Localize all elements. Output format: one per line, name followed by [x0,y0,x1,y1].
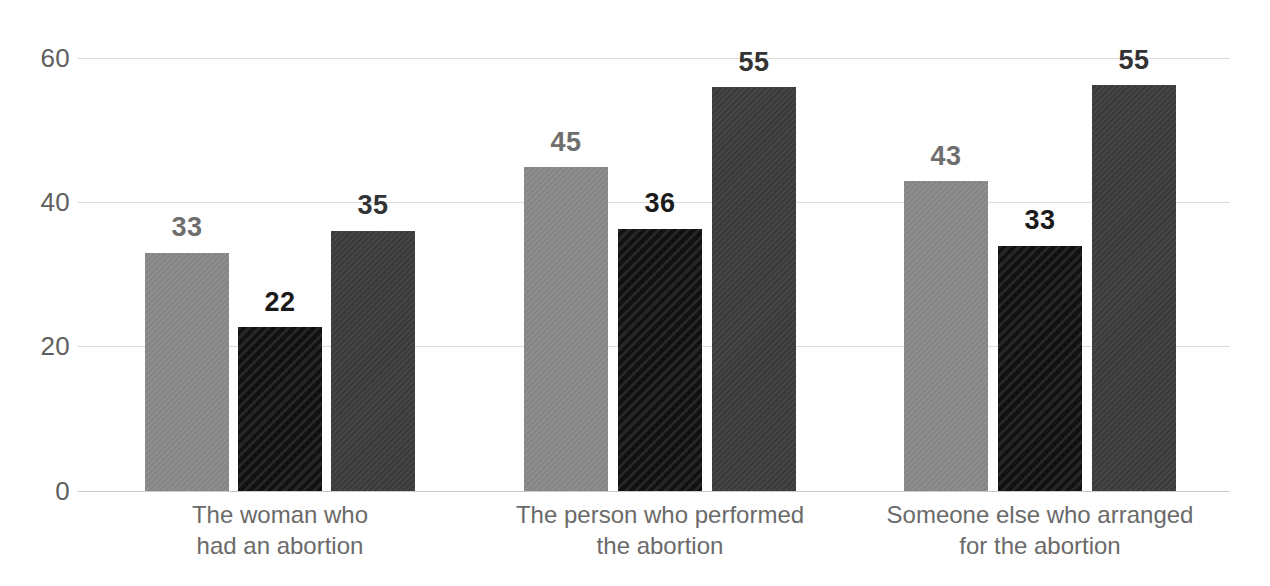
bar-value-label-group-0-series-0: 33 [145,214,229,241]
bar-value-label-group-2-series-2: 55 [1092,47,1176,74]
bar-group-1-series-0 [524,167,608,491]
bar-group-0-series-0 [145,253,229,491]
y-axis-tick-20: 20 [16,333,70,359]
bar-chart: 60 40 20 0 33 22 35 The woman who had an… [0,0,1270,586]
category-label-1: The person who performed the abortion [500,500,820,561]
category-label-1-line-0: The person who performed [500,500,820,531]
gridline-0-baseline [78,491,1230,492]
bar-group-1-series-2 [712,87,796,491]
y-axis-tick-0: 0 [16,478,70,504]
category-label-2-line-0: Someone else who arranged [880,500,1200,531]
category-label-0-line-1: had an abortion [150,531,410,562]
bar-group-2-series-1 [998,246,1082,491]
category-label-0: The woman who had an abortion [150,500,410,561]
category-label-2-line-1: for the abortion [880,531,1200,562]
category-label-1-line-1: the abortion [500,531,820,562]
category-label-0-line-0: The woman who [150,500,410,531]
y-axis-tick-60: 60 [16,45,70,71]
bar-group-0-series-2 [331,231,415,491]
bar-group-0-series-1 [238,327,322,491]
plot-area: 60 40 20 0 33 22 35 The woman who had an… [0,0,1270,586]
bar-value-label-group-0-series-1: 22 [238,289,322,316]
bar-group-2-series-0 [904,181,988,491]
bar-value-label-group-2-series-0: 43 [904,143,988,170]
bar-value-label-group-0-series-2: 35 [331,192,415,219]
bar-value-label-group-1-series-2: 55 [712,49,796,76]
gridline-60 [78,58,1230,59]
bar-group-1-series-1 [618,229,702,491]
bar-group-2-series-2 [1092,85,1176,491]
bar-value-label-group-1-series-1: 36 [618,190,702,217]
y-axis-tick-40: 40 [16,189,70,215]
bar-value-label-group-2-series-1: 33 [998,207,1082,234]
bar-value-label-group-1-series-0: 45 [524,129,608,156]
category-label-2: Someone else who arranged for the aborti… [880,500,1200,561]
